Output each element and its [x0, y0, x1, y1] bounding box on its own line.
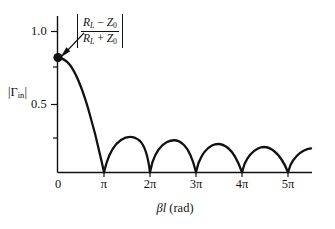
x-axis-label-unit: (rad)	[169, 201, 193, 215]
x-tick-label-4pi: 4π	[236, 178, 249, 191]
y-axis-label-bar-right: |	[24, 85, 27, 99]
y-tick-label-0-5: 0.5	[31, 98, 47, 111]
numerator-r-subscript: L	[90, 21, 94, 30]
denominator-r: R	[83, 32, 90, 44]
numerator-r: R	[83, 16, 90, 28]
numerator-z-subscript: 0	[113, 21, 117, 30]
numerator-minus: −	[97, 16, 104, 28]
x-tick-label-0: 0	[55, 178, 61, 191]
plot-area	[0, 0, 335, 229]
abs-bar-left-icon	[77, 14, 78, 48]
abs-bar-right-icon	[122, 14, 123, 48]
y-tick-marks	[51, 32, 58, 139]
start-point-marker	[53, 53, 62, 62]
reflection-coefficient-annotation: RL − Z0 RL + Z0	[74, 14, 126, 50]
figure-container: 1.0 0.5 0 π 2π 3π 4π 5π |Γin| βl (rad) R…	[0, 0, 335, 229]
y-tick-label-1: 1.0	[31, 25, 47, 38]
absolute-value-expression: RL − Z0 RL + Z0	[74, 14, 126, 48]
data-curve	[58, 58, 312, 173]
denominator-r-subscript: L	[90, 36, 94, 45]
x-tick-label-pi: π	[101, 178, 107, 191]
y-axis-label: |Γin|	[8, 86, 27, 99]
x-tick-label-2pi: 2π	[144, 178, 157, 191]
x-tick-label-3pi: 3π	[190, 178, 203, 191]
x-tick-label-5pi: 5π	[282, 178, 295, 191]
denominator-plus: +	[97, 32, 104, 44]
x-axis-label: βl (rad)	[156, 202, 193, 215]
x-axis-label-l: l	[163, 201, 166, 215]
y-axis-label-gamma: Γ	[11, 85, 18, 99]
denominator-z-subscript: 0	[113, 36, 117, 45]
fraction-numerator: RL − Z0	[81, 17, 119, 32]
fraction: RL − Z0 RL + Z0	[81, 17, 119, 45]
fraction-denominator: RL + Z0	[81, 32, 119, 46]
